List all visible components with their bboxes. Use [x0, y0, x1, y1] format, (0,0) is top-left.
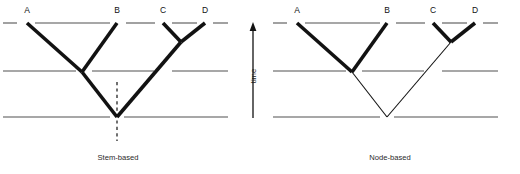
- tip-labels-node-panel: ABCD: [294, 5, 478, 15]
- tip-label-d: D: [202, 5, 208, 15]
- tip-label-c: C: [160, 5, 166, 15]
- panel-stem-based: ABCD Stem-based: [3, 5, 228, 162]
- up-arrow-icon: [250, 22, 257, 31]
- tip-labels-stem-panel: ABCD: [24, 5, 208, 15]
- branch-B: [82, 23, 117, 72]
- branch-C: [433, 23, 451, 42]
- horizon-lines-node-panel: [273, 23, 498, 117]
- time-axis: time: [249, 22, 258, 118]
- tip-label-a: A: [24, 5, 30, 15]
- branch-AB-stem: [82, 72, 117, 117]
- branch-A: [297, 23, 352, 72]
- thick-branches-stem-panel: [27, 23, 205, 117]
- branch-A: [27, 23, 82, 72]
- branch-CD-stem: [387, 42, 451, 117]
- horizon-lines-stem-panel: [3, 23, 228, 117]
- panel-caption-stem-based: Stem-based: [98, 153, 139, 162]
- tip-label-c: C: [430, 5, 436, 15]
- thick-branches-node-panel: [297, 23, 475, 72]
- tip-label-a: A: [294, 5, 300, 15]
- panel-node-based: ABCD Node-based: [273, 5, 498, 162]
- tip-label-d: D: [472, 5, 478, 15]
- time-axis-label: time: [249, 69, 258, 83]
- panel-caption-node-based: Node-based: [369, 153, 410, 162]
- tip-label-b: B: [384, 5, 390, 15]
- figure-root: ABCD Stem-based time ABCD Node-based: [0, 0, 520, 174]
- branch-D: [451, 23, 475, 42]
- branch-D: [181, 23, 205, 42]
- branch-AB-stem: [352, 72, 387, 117]
- tip-label-b: B: [114, 5, 120, 15]
- branch-CD-stem: [117, 42, 181, 117]
- branch-B: [352, 23, 387, 72]
- phylogeny-diagram: ABCD Stem-based time ABCD Node-based: [0, 0, 520, 174]
- branch-C: [163, 23, 181, 42]
